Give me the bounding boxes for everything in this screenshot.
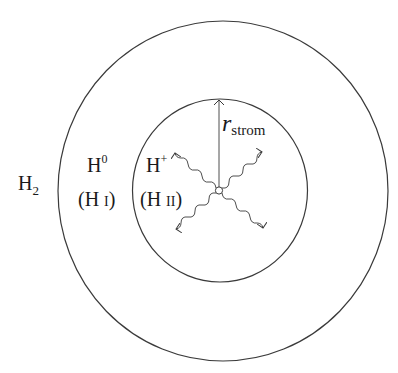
stromgren-sphere-diagram: H2 H0 (H I) H+ (H II) rstrom	[0, 0, 398, 373]
central-star	[215, 187, 222, 194]
label-h-ii: (H II)	[140, 188, 182, 211]
photon-arrow-upper-right	[222, 152, 262, 188]
label-stromgren-radius: rstrom	[222, 110, 266, 138]
label-molecular-hydrogen: H2	[18, 172, 39, 198]
label-h-i: (H I)	[78, 188, 115, 211]
photon-arrow-lower-right	[222, 193, 263, 228]
label-neutral-hydrogen: H0	[87, 152, 107, 176]
photon-arrow-upper-left	[175, 153, 216, 188]
label-ionized-hydrogen: H+	[146, 152, 167, 176]
